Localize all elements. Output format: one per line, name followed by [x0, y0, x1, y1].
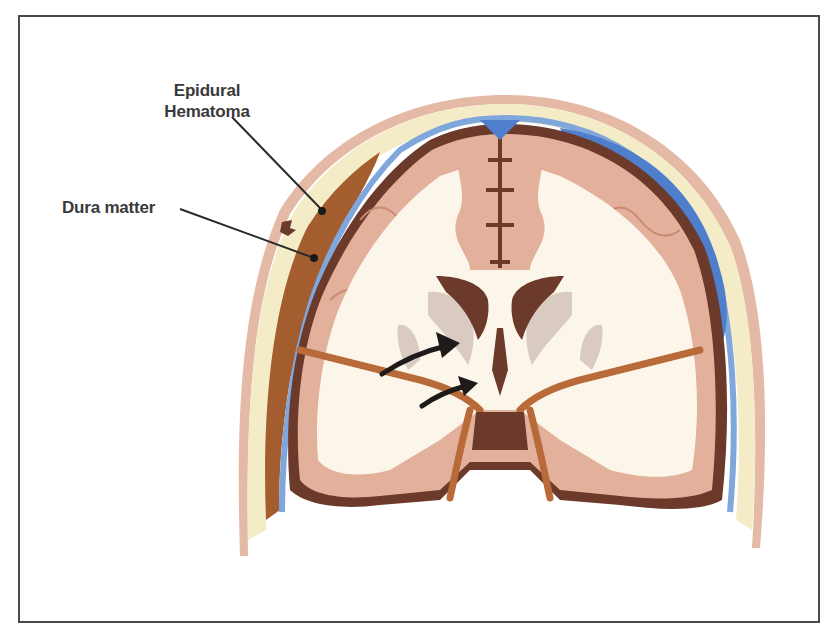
- epidural-hematoma-label: Epidural Hematoma: [147, 80, 267, 122]
- brain-coronal-illustration: [0, 0, 831, 642]
- epidural-hematoma-leader-line: [232, 117, 322, 210]
- epidural-hematoma-label-line1: Epidural: [147, 80, 267, 101]
- epidural-hematoma-label-line2: Hematoma: [147, 101, 267, 122]
- dura-matter-label: Dura matter: [62, 197, 155, 218]
- epidural-hematoma-pointer-dot: [318, 207, 326, 215]
- brainstem-region: [472, 412, 528, 450]
- dura-matter-pointer-dot: [310, 254, 318, 262]
